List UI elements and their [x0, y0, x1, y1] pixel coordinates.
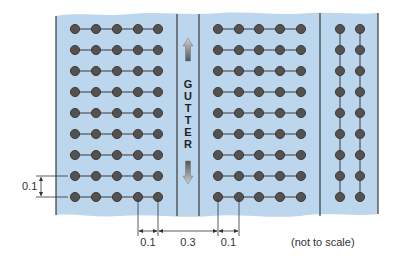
- hole-dot: [234, 24, 243, 33]
- svg-text:E: E: [184, 126, 191, 138]
- hole-dot: [213, 129, 222, 138]
- hole-dot: [91, 87, 100, 96]
- hole-dot: [133, 45, 142, 54]
- svg-text:T: T: [185, 102, 192, 114]
- hole-dot: [234, 129, 243, 138]
- hole-dot: [355, 45, 364, 54]
- left-column-spacing-label: 0.1: [140, 236, 155, 248]
- hole-dot: [275, 66, 284, 75]
- hole-dot: [234, 150, 243, 159]
- hole-dot: [112, 108, 121, 117]
- hole-dot: [296, 171, 305, 180]
- hole-dot: [335, 45, 344, 54]
- hole-dot: [275, 129, 284, 138]
- hole-dot: [70, 150, 79, 159]
- hole-dot: [133, 24, 142, 33]
- hole-dot: [213, 150, 222, 159]
- row-spacing-label: 0.1: [22, 180, 37, 192]
- hole-dot: [112, 66, 121, 75]
- hole-dot: [153, 108, 162, 117]
- hole-dot: [153, 171, 162, 180]
- hole-dot: [112, 129, 121, 138]
- hole-dot: [275, 192, 284, 201]
- hole-dot: [296, 24, 305, 33]
- hole-dot: [296, 150, 305, 159]
- hole-dot: [153, 150, 162, 159]
- hole-dot: [254, 87, 263, 96]
- hole-dot: [234, 108, 243, 117]
- hole-dot: [91, 171, 100, 180]
- hole-dot: [335, 24, 344, 33]
- hole-dot: [70, 87, 79, 96]
- hole-dot: [153, 45, 162, 54]
- hole-dot: [254, 192, 263, 201]
- hole-dot: [355, 66, 364, 75]
- hole-dot: [234, 87, 243, 96]
- hole-dot: [70, 129, 79, 138]
- gutter-width-label: 0.3: [180, 236, 195, 248]
- hole-dot: [153, 24, 162, 33]
- hole-dot: [296, 108, 305, 117]
- hole-dot: [91, 45, 100, 54]
- hole-dot: [275, 108, 284, 117]
- right-column-spacing-label: 0.1: [221, 236, 236, 248]
- hole-dot: [70, 108, 79, 117]
- hole-dot: [234, 45, 243, 54]
- hole-dot: [355, 171, 364, 180]
- hole-dot: [133, 150, 142, 159]
- hole-dot: [91, 129, 100, 138]
- hole-dot: [296, 45, 305, 54]
- hole-dot: [234, 171, 243, 180]
- svg-text:T: T: [185, 114, 192, 126]
- hole-dot: [213, 108, 222, 117]
- hole-dot: [355, 129, 364, 138]
- hole-dot: [254, 45, 263, 54]
- hole-dot: [335, 108, 344, 117]
- hole-dot: [254, 24, 263, 33]
- hole-dot: [275, 45, 284, 54]
- hole-dot: [355, 24, 364, 33]
- hole-dot: [112, 192, 121, 201]
- hole-dot: [254, 150, 263, 159]
- hole-dot: [296, 87, 305, 96]
- hole-dot: [275, 171, 284, 180]
- hole-dot: [296, 66, 305, 75]
- not-to-scale-note: (not to scale): [291, 236, 355, 248]
- svg-text:R: R: [184, 138, 192, 150]
- hole-dot: [112, 150, 121, 159]
- hole-dot: [335, 150, 344, 159]
- hole-dot: [275, 24, 284, 33]
- hole-dot: [70, 192, 79, 201]
- hole-dot: [254, 129, 263, 138]
- svg-text:G: G: [184, 78, 193, 90]
- hole-dot: [112, 171, 121, 180]
- hole-dot: [355, 150, 364, 159]
- hole-dot: [296, 192, 305, 201]
- hole-dot: [70, 66, 79, 75]
- hole-dot: [133, 129, 142, 138]
- hole-dot: [355, 108, 364, 117]
- hole-dot: [91, 150, 100, 159]
- hole-dot: [213, 24, 222, 33]
- hole-dot: [234, 66, 243, 75]
- hole-dot: [213, 171, 222, 180]
- hole-dot: [275, 150, 284, 159]
- hole-dot: [355, 87, 364, 96]
- hole-dot: [112, 24, 121, 33]
- hole-dot: [213, 66, 222, 75]
- hole-dot: [70, 24, 79, 33]
- hole-dot: [335, 171, 344, 180]
- hole-dot: [153, 129, 162, 138]
- hole-dot: [133, 171, 142, 180]
- hole-dot: [133, 87, 142, 96]
- hole-dot: [70, 45, 79, 54]
- hole-dot: [153, 87, 162, 96]
- svg-text:U: U: [184, 90, 192, 102]
- hole-dot: [296, 129, 305, 138]
- hole-dot: [254, 66, 263, 75]
- gutter-label: G U T T E R: [184, 78, 193, 150]
- breadboard-diagram: G U T T E R 0.1 0.1 0.3 0.1 (not to scal: [0, 0, 397, 266]
- hole-dot: [275, 87, 284, 96]
- hole-dot: [133, 66, 142, 75]
- hole-dot: [112, 87, 121, 96]
